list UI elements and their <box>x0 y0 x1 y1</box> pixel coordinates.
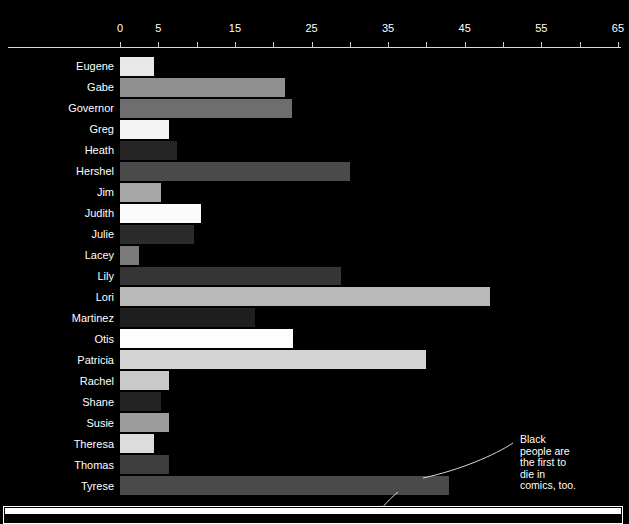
category-label: Julie <box>91 228 120 241</box>
bar <box>120 308 255 327</box>
bar <box>120 57 154 76</box>
chart-row: Otis <box>0 328 629 349</box>
plot-area: EugeneGabeGovernorGregHeathHershelJimJud… <box>0 56 629 496</box>
category-label: Gabe <box>87 81 120 94</box>
category-label: Lori <box>96 290 120 303</box>
category-label: Hershel <box>76 165 120 178</box>
chart-row: Hershel <box>0 161 629 182</box>
annotation-line-1: Black <box>520 434 624 446</box>
category-label: Heath <box>85 144 120 157</box>
chart-row: Lori <box>0 286 629 307</box>
chart-row: Gabe <box>0 77 629 98</box>
bar <box>120 267 341 286</box>
bar <box>120 350 426 369</box>
bar <box>120 99 292 118</box>
x-axis-tick-label: 0 <box>117 22 123 35</box>
bar <box>120 434 154 453</box>
category-label: Shane <box>82 395 120 408</box>
category-label: Susie <box>86 416 120 429</box>
bar <box>120 476 449 495</box>
chart-row: Governor <box>0 98 629 119</box>
x-axis-tick-label: 35 <box>382 22 394 35</box>
bar <box>120 246 139 265</box>
chart-row: Lacey <box>0 245 629 266</box>
category-label: Martinez <box>72 311 120 324</box>
category-label: Thomas <box>74 458 120 471</box>
chart-row: Jim <box>0 182 629 203</box>
category-label: Otis <box>94 332 120 345</box>
bar-chart: 05152535455565 EugeneGabeGovernorGregHea… <box>0 0 629 524</box>
chart-row: Heath <box>0 140 629 161</box>
bar <box>120 78 285 97</box>
category-label: Patricia <box>77 353 120 366</box>
category-label: Eugene <box>76 60 120 73</box>
category-label: Greg <box>90 123 120 136</box>
category-label: Theresa <box>74 437 120 450</box>
x-axis-line <box>8 47 621 48</box>
category-label: Governor <box>68 102 120 115</box>
x-axis-tick-label: 25 <box>305 22 317 35</box>
x-axis-tick-label: 55 <box>535 22 547 35</box>
x-axis-tick-label: 45 <box>459 22 471 35</box>
category-label: Rachel <box>80 374 120 387</box>
annotation-text: Black people are the first to die in com… <box>520 434 624 492</box>
category-label: Jim <box>97 186 120 199</box>
bottom-panel-highlight <box>5 508 621 514</box>
chart-row: Judith <box>0 203 629 224</box>
bar <box>120 455 169 474</box>
category-label: Judith <box>85 207 120 220</box>
chart-row: Greg <box>0 119 629 140</box>
bar <box>120 225 194 244</box>
x-axis-tick-label: 65 <box>612 22 624 35</box>
chart-row: Susie <box>0 412 629 433</box>
bar <box>120 371 169 390</box>
category-label: Lily <box>97 269 120 282</box>
chart-row: Rachel <box>0 370 629 391</box>
bar <box>120 392 161 411</box>
bar <box>120 183 161 202</box>
bar <box>120 120 169 139</box>
chart-row: Shane <box>0 391 629 412</box>
x-axis-tick-label: 5 <box>155 22 161 35</box>
chart-row: Eugene <box>0 56 629 77</box>
x-axis-tick-label: 15 <box>229 22 241 35</box>
bar <box>120 413 169 432</box>
chart-row: Patricia <box>0 349 629 370</box>
chart-row: Julie <box>0 224 629 245</box>
bar <box>120 141 177 160</box>
annotation-line-5: comics, too. <box>520 480 624 492</box>
chart-row: Martinez <box>0 307 629 328</box>
category-label: Lacey <box>85 249 120 262</box>
category-label: Tyrese <box>81 479 120 492</box>
bar <box>120 329 293 348</box>
chart-row: Lily <box>0 266 629 287</box>
bottom-panel <box>3 506 623 524</box>
x-axis: 05152535455565 <box>0 22 629 48</box>
bar <box>120 287 490 306</box>
bar <box>120 204 201 223</box>
bar <box>120 162 350 181</box>
